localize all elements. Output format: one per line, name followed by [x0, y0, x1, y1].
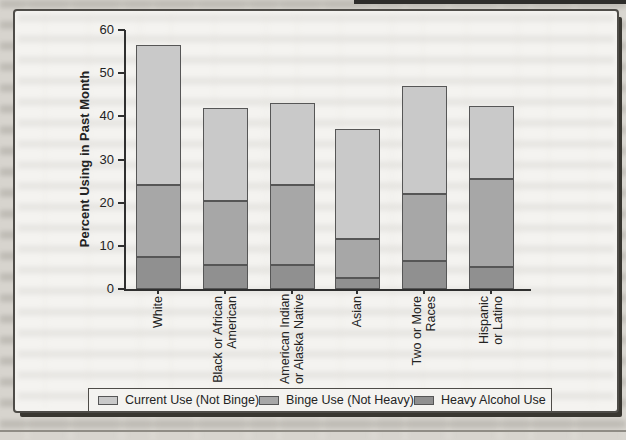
- chart-legend: Current Use (Not Binge)Binge Use (Not He…: [88, 388, 552, 412]
- stacked-bar-chart-plot-area: 0102030405060WhiteBlack or AfricanAmeric…: [124, 30, 531, 291]
- x-tick-label: Asian: [350, 296, 364, 384]
- y-tick-label: 50: [80, 65, 114, 80]
- y-tick: [118, 245, 125, 247]
- x-tick-label-line: Asian: [350, 296, 364, 384]
- y-tick: [118, 288, 125, 290]
- bar-segment-current-use-not-binge: [469, 106, 514, 179]
- bar-segment-heavy-alcohol-use: [136, 257, 181, 289]
- bar-segment-binge-use-not-heavy: [203, 201, 248, 266]
- y-tick-label: 40: [80, 108, 114, 123]
- legend-label: Heavy Alcohol Use: [441, 393, 546, 407]
- x-tick: [356, 289, 358, 294]
- y-tick-label: 0: [80, 281, 114, 296]
- x-tick-label-line: Black or African: [211, 296, 225, 384]
- bar-segment-current-use-not-binge: [203, 108, 248, 201]
- bar-segment-binge-use-not-heavy: [136, 185, 181, 256]
- legend-item: Current Use (Not Binge): [98, 393, 259, 407]
- legend-swatch: [98, 396, 118, 405]
- x-tick: [224, 289, 226, 294]
- x-tick-label-line: Hispanic: [477, 296, 491, 384]
- x-tick-label-line: American Indian: [278, 296, 292, 384]
- bar-segment-heavy-alcohol-use: [270, 265, 315, 289]
- bar-segment-binge-use-not-heavy: [270, 185, 315, 265]
- y-tick-label: 10: [80, 238, 114, 253]
- y-tick: [118, 72, 125, 74]
- x-tick-label-line: or Latino: [491, 296, 505, 384]
- legend-label: Binge Use (Not Heavy): [286, 393, 414, 407]
- bar-segment-heavy-alcohol-use: [469, 267, 514, 289]
- x-tick-label-line: American: [225, 296, 239, 384]
- legend-item: Binge Use (Not Heavy): [259, 393, 414, 407]
- x-tick-label: Hispanicor Latino: [477, 296, 505, 384]
- x-tick-label-line: Two or More: [410, 296, 424, 384]
- bar-segment-current-use-not-binge: [136, 45, 181, 185]
- bar-segment-heavy-alcohol-use: [402, 261, 447, 289]
- legend-item: Heavy Alcohol Use: [414, 393, 546, 407]
- x-tick-label-line: White: [151, 296, 165, 384]
- y-tick-label: 60: [80, 22, 114, 37]
- bar-segment-current-use-not-binge: [402, 86, 447, 194]
- y-tick-label: 20: [80, 195, 114, 210]
- bar-segment-current-use-not-binge: [335, 129, 380, 239]
- bar-segment-binge-use-not-heavy: [402, 194, 447, 261]
- bar-segment-heavy-alcohol-use: [203, 265, 248, 289]
- x-tick: [157, 289, 159, 294]
- y-tick: [118, 159, 125, 161]
- y-tick: [118, 115, 125, 117]
- y-tick: [118, 29, 125, 31]
- page-horizontal-rule: [0, 430, 626, 432]
- x-tick-label: Black or AfricanAmerican: [211, 296, 239, 384]
- bar-segment-binge-use-not-heavy: [335, 239, 380, 278]
- y-tick-label: 30: [80, 152, 114, 167]
- legend-label: Current Use (Not Binge): [125, 393, 259, 407]
- bar-segment-binge-use-not-heavy: [469, 179, 514, 267]
- x-tick: [490, 289, 492, 294]
- figure-box: Percent Using in Past Month 010203040506…: [13, 9, 619, 413]
- y-tick: [118, 202, 125, 204]
- x-tick: [423, 289, 425, 294]
- x-tick-label: White: [151, 296, 165, 384]
- scanned-book-page: Percent Using in Past Month 010203040506…: [0, 0, 626, 440]
- x-tick-label-line: Races: [424, 296, 438, 384]
- x-tick-label: Two or MoreRaces: [410, 296, 438, 384]
- legend-swatch: [259, 396, 279, 405]
- x-tick-label: American Indianor Alaska Native: [278, 296, 306, 384]
- adjacent-figure-edge: [354, 0, 626, 4]
- legend-swatch: [414, 396, 434, 405]
- bar-segment-current-use-not-binge: [270, 103, 315, 185]
- x-tick-label-line: or Alaska Native: [292, 296, 306, 384]
- bar-segment-heavy-alcohol-use: [335, 278, 380, 289]
